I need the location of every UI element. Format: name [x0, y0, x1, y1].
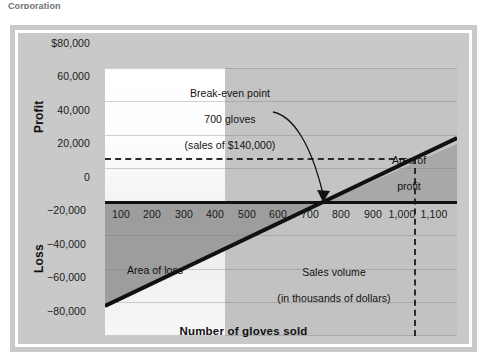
- break-even-line-2: 700 gloves: [155, 113, 305, 126]
- area-of-profit-line-2: profit: [373, 180, 445, 193]
- break-even-line-3: (sales of $140,000): [155, 139, 305, 152]
- annotation-break-even: Break-even point 700 gloves (sales of $1…: [155, 74, 305, 165]
- annotation-area-of-profit: Area of profit: [373, 141, 445, 206]
- x-tick-label-1100: 1,100: [414, 208, 454, 220]
- y-axis-title-loss: Loss: [32, 244, 46, 273]
- y-tick-label-80000: $80,000: [20, 37, 90, 49]
- y-tick-label-minus20000: −20,000: [16, 204, 86, 216]
- chart-frame: $80,000 60,000 40,000 20,000 0 −20,000 −…: [10, 25, 477, 352]
- y-tick-label-minus40000: −40,000: [16, 238, 86, 250]
- y-axis-title-profit: Profit: [32, 100, 46, 133]
- y-tick-label-20000: 20,000: [20, 137, 90, 149]
- y-tick-label-40000: 40,000: [20, 104, 90, 116]
- y-tick-label-60000: 60,000: [20, 70, 90, 82]
- y-tick-label-minus60000: −60,000: [16, 271, 86, 283]
- y-tick-label-0: 0: [20, 171, 90, 183]
- area-of-profit-line-1: Area of: [373, 154, 445, 167]
- figure-caption: Corporation: [8, 0, 208, 9]
- area-of-loss-label: Area of loss: [127, 264, 237, 277]
- annotation-sales-volume: Sales volume (in thousands of dollars): [253, 253, 415, 318]
- break-even-line-1: Break-even point: [155, 87, 305, 100]
- sales-volume-line-2: (in thousands of dollars): [253, 292, 415, 305]
- plot-area: Break-even point 700 gloves (sales of $1…: [105, 68, 457, 336]
- annotation-area-of-loss: Area of loss: [127, 251, 237, 290]
- figure-caption-text: Corporation: [8, 1, 61, 9]
- sales-volume-line-1: Sales volume: [253, 266, 415, 279]
- x-axis-title: Number of gloves sold: [10, 325, 477, 337]
- y-tick-label-minus80000: −80,000: [16, 305, 86, 317]
